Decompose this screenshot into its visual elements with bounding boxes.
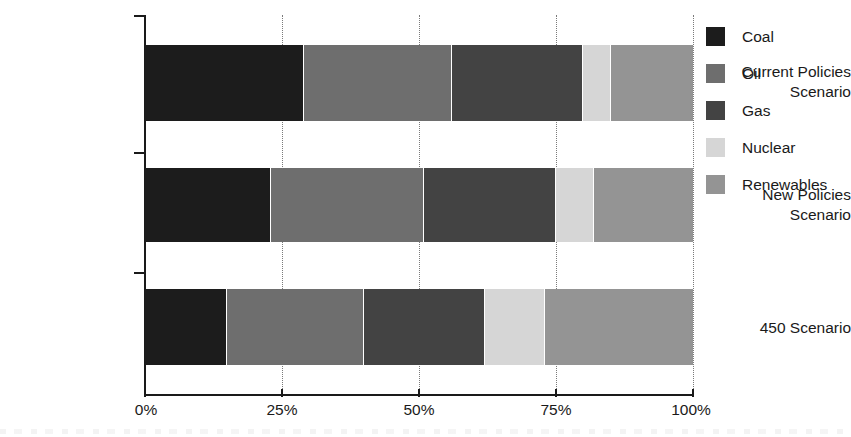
chart-legend: Coal Oil Gas Nuclear Renewables: [706, 18, 827, 203]
bar-segment-nuclear: [485, 289, 545, 365]
bar-segment-oil: [304, 45, 452, 121]
bar-segment-gas: [424, 168, 556, 242]
y-axis-label-450-scenario: 450 Scenario: [719, 318, 851, 338]
legend-item-nuclear: Nuclear: [706, 129, 827, 166]
x-axis-tick-0: [144, 389, 146, 397]
x-axis-label-50: 50%: [403, 400, 434, 420]
legend-item-coal: Coal: [706, 18, 827, 55]
legend-swatch-nuclear-icon: [706, 138, 725, 157]
bar-segment-oil: [227, 289, 364, 365]
x-axis-label-100: 100%: [671, 400, 711, 420]
bar-segment-nuclear: [583, 45, 610, 121]
x-axis-tick-50: [418, 389, 420, 397]
legend-label-renewables: Renewables: [742, 175, 827, 195]
bar-segment-coal: [145, 168, 271, 242]
bar-segment-coal: [145, 45, 304, 121]
x-axis-label-75: 75%: [540, 400, 571, 420]
bar-segment-nuclear: [556, 168, 594, 242]
legend-item-renewables: Renewables: [706, 166, 827, 203]
legend-label-coal: Coal: [742, 27, 774, 47]
legend-swatch-oil-icon: [706, 64, 725, 83]
gridline-100: [693, 15, 695, 395]
bar-segment-renewables: [594, 168, 693, 242]
legend-swatch-renewables-icon: [706, 175, 725, 194]
legend-swatch-gas-icon: [706, 101, 725, 120]
bar-segment-renewables: [611, 45, 693, 121]
y-axis-tick-top: [134, 15, 145, 17]
bar-group-current-policies: [145, 45, 693, 121]
legend-label-oil: Oil: [742, 64, 761, 84]
stacked-bar-chart: Current Policies Scenario New Policies S…: [0, 0, 851, 437]
stacked-bar-450-scenario: [145, 289, 693, 365]
legend-label-gas: Gas: [742, 101, 770, 121]
legend-item-gas: Gas: [706, 92, 827, 129]
y-axis-tick-1: [134, 152, 145, 154]
bar-segment-coal: [145, 289, 227, 365]
x-axis-tick-25: [281, 389, 283, 397]
x-axis-label-0: 0%: [135, 400, 157, 420]
legend-label-nuclear: Nuclear: [742, 138, 795, 158]
scan-artifact: [0, 429, 851, 434]
x-axis-tick-100: [692, 389, 694, 397]
x-axis-label-25: 25%: [266, 400, 297, 420]
stacked-bar-current-policies: [145, 45, 693, 121]
stacked-bar-new-policies: [145, 168, 693, 242]
bar-segment-renewables: [545, 289, 693, 365]
x-axis-tick-75: [555, 389, 557, 397]
bar-segment-gas: [364, 289, 485, 365]
bar-segment-gas: [452, 45, 584, 121]
y-axis-tick-2: [134, 272, 145, 274]
bar-group-450-scenario: [145, 289, 693, 365]
bar-group-new-policies: [145, 168, 693, 242]
bar-segment-oil: [271, 168, 424, 242]
legend-swatch-coal-icon: [706, 27, 725, 46]
legend-item-oil: Oil: [706, 55, 827, 92]
